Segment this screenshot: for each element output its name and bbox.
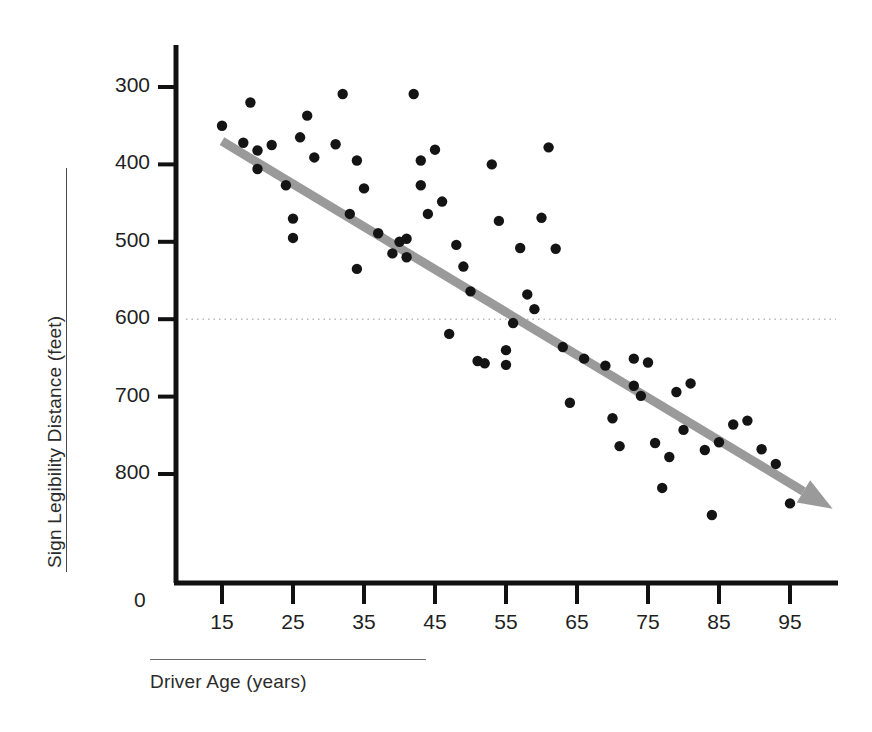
- y-tick-label: 800: [80, 460, 150, 484]
- data-point: [742, 415, 752, 425]
- data-point: [756, 444, 766, 454]
- data-point: [352, 155, 362, 165]
- data-point: [508, 318, 518, 328]
- data-point: [401, 234, 411, 244]
- data-point: [465, 286, 475, 296]
- data-point: [678, 425, 688, 435]
- x-tick-label: 55: [486, 610, 526, 634]
- data-point: [238, 138, 248, 148]
- y-axis-zero-label: 0: [134, 588, 146, 612]
- y-tick-label: 400: [80, 150, 150, 174]
- data-point: [267, 140, 277, 150]
- data-point: [501, 345, 511, 355]
- data-point: [338, 89, 348, 99]
- data-point: [515, 243, 525, 253]
- data-point: [579, 353, 589, 363]
- data-point: [373, 228, 383, 238]
- x-axis-ticks: [222, 583, 790, 604]
- x-tick-label: 95: [770, 610, 810, 634]
- y-axis-title-rule: [66, 168, 67, 572]
- data-point: [636, 391, 646, 401]
- data-point: [558, 342, 568, 352]
- y-tick-label: 700: [80, 383, 150, 407]
- data-point: [607, 413, 617, 423]
- data-point: [245, 97, 255, 107]
- data-point: [522, 289, 532, 299]
- data-points: [217, 89, 795, 520]
- y-axis-title: Sign Legibility Distance (feet): [44, 316, 66, 568]
- data-point: [664, 452, 674, 462]
- data-point: [295, 132, 305, 142]
- x-axis-title-rule: [150, 659, 426, 660]
- data-point: [252, 164, 262, 174]
- data-point: [671, 387, 681, 397]
- x-tick-label: 65: [557, 610, 597, 634]
- trendline-arrowhead: [797, 480, 833, 509]
- data-point: [288, 233, 298, 243]
- data-point: [302, 110, 312, 120]
- x-tick-label: 35: [344, 610, 384, 634]
- data-point: [714, 437, 724, 447]
- y-axis-title-group: Sign Legibility Distance (feet): [0, 0, 80, 600]
- data-point: [529, 304, 539, 314]
- data-point: [728, 419, 738, 429]
- data-point: [650, 438, 660, 448]
- data-point: [252, 145, 262, 155]
- y-axis-ticks: [158, 87, 176, 474]
- data-point: [423, 209, 433, 219]
- chart-figure: Sign Legibility Distance (feet) Driver A…: [0, 0, 872, 732]
- y-tick-label: 500: [80, 228, 150, 252]
- data-point: [629, 381, 639, 391]
- x-tick-label: 45: [415, 610, 455, 634]
- data-point: [551, 244, 561, 254]
- data-point: [501, 360, 511, 370]
- data-point: [330, 139, 340, 149]
- data-point: [401, 252, 411, 262]
- trendline-arrow: [222, 141, 833, 509]
- x-axis-title: Driver Age (years): [150, 671, 307, 693]
- data-point: [700, 445, 710, 455]
- data-point: [352, 264, 362, 274]
- data-point: [771, 459, 781, 469]
- data-point: [416, 155, 426, 165]
- x-axis-title-group: Driver Age (years): [150, 655, 470, 715]
- data-point: [451, 240, 461, 250]
- data-point: [494, 216, 504, 226]
- data-point: [629, 353, 639, 363]
- y-tick-label: 300: [80, 73, 150, 97]
- data-point: [707, 510, 717, 520]
- data-point: [685, 378, 695, 388]
- data-point: [217, 121, 227, 131]
- data-point: [444, 329, 454, 339]
- data-point: [309, 152, 319, 162]
- data-point: [657, 483, 667, 493]
- data-point: [437, 196, 447, 206]
- data-point: [614, 441, 624, 451]
- data-point: [387, 248, 397, 258]
- data-point: [409, 89, 419, 99]
- y-tick-label: 600: [80, 305, 150, 329]
- data-point: [643, 357, 653, 367]
- data-point: [536, 213, 546, 223]
- data-point: [359, 183, 369, 193]
- data-point: [487, 159, 497, 169]
- x-tick-label: 75: [628, 610, 668, 634]
- data-point: [480, 358, 490, 368]
- x-tick-label: 25: [273, 610, 313, 634]
- data-point: [565, 398, 575, 408]
- data-point: [458, 261, 468, 271]
- x-tick-label: 85: [699, 610, 739, 634]
- data-point: [345, 209, 355, 219]
- data-point: [430, 144, 440, 154]
- data-point: [288, 213, 298, 223]
- data-point: [600, 360, 610, 370]
- data-point: [281, 180, 291, 190]
- data-point: [416, 180, 426, 190]
- x-tick-label: 15: [202, 610, 242, 634]
- data-point: [785, 498, 795, 508]
- data-point: [543, 142, 553, 152]
